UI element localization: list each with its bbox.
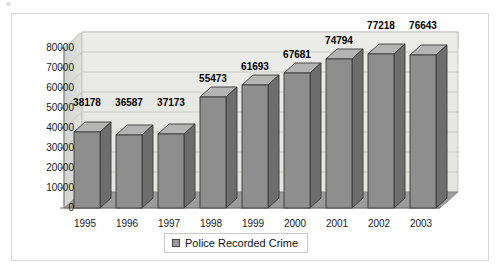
x-axis-tick-1995: 1995 xyxy=(65,218,105,230)
scan-artifact-speck xyxy=(6,2,11,6)
bar-2002-front xyxy=(368,54,394,208)
legend-series-label: Police Recorded Crime xyxy=(185,237,298,249)
legend-color-swatch-icon xyxy=(172,239,180,247)
bar-2001[interactable] xyxy=(326,49,363,208)
bar-value-1998: 55473 xyxy=(190,73,236,84)
bar-2003-front xyxy=(410,55,436,208)
bar-1999-side xyxy=(268,75,279,208)
bar-value-1997: 37173 xyxy=(148,97,194,108)
chart-frame: 38178 36587 37173 55473 61693 67681 7479… xyxy=(11,13,489,261)
bar-2002-side xyxy=(394,44,405,208)
y-axis-tick-10000: 10000 xyxy=(22,183,74,193)
bar-1999[interactable] xyxy=(242,75,279,208)
bar-2002[interactable] xyxy=(368,44,405,208)
bar-2003-side xyxy=(436,45,447,208)
bar-1997-front xyxy=(158,134,184,208)
x-axis-tick-1999: 1999 xyxy=(233,218,273,230)
y-axis-tick-30000: 30000 xyxy=(22,143,74,153)
bar-value-1996: 36587 xyxy=(106,97,152,108)
x-axis-tick-2002: 2002 xyxy=(359,218,399,230)
x-axis-labels: 1995 1996 1997 1998 1999 2000 2001 2002 … xyxy=(12,218,490,234)
bar-1998-front xyxy=(200,97,226,208)
y-axis-tick-70000: 70000 xyxy=(22,63,74,73)
y-axis-tick-60000: 60000 xyxy=(22,83,74,93)
bar-1998[interactable] xyxy=(200,87,237,208)
bar-2000-side xyxy=(310,63,321,208)
bar-value-2000: 67681 xyxy=(274,49,320,60)
x-axis-tick-1998: 1998 xyxy=(191,218,231,230)
bar-1997-side xyxy=(184,124,195,208)
x-axis-tick-2001: 2001 xyxy=(317,218,357,230)
bar-2003[interactable] xyxy=(410,45,447,208)
y-axis-tick-50000: 50000 xyxy=(22,103,74,113)
bar-1996[interactable] xyxy=(116,125,153,208)
y-axis-tick-20000: 20000 xyxy=(22,163,74,173)
bar-1995-front xyxy=(74,132,100,208)
bar-value-2002: 77218 xyxy=(358,20,404,31)
x-axis-tick-2000: 2000 xyxy=(275,218,315,230)
bar-2001-front xyxy=(326,59,352,208)
y-axis-tick-40000: 40000 xyxy=(22,123,74,133)
chart-legend[interactable]: Police Recorded Crime xyxy=(164,233,308,253)
bar-value-2001: 74794 xyxy=(316,35,362,46)
bar-1997[interactable] xyxy=(158,124,195,208)
bar-2001-side xyxy=(352,49,363,208)
bar-1999-front xyxy=(242,85,268,208)
bar-2000[interactable] xyxy=(284,63,321,208)
x-axis-tick-1997: 1997 xyxy=(149,218,189,230)
bar-value-1999: 61693 xyxy=(232,61,278,72)
x-axis-tick-1996: 1996 xyxy=(107,218,147,230)
y-axis-tick-80000: 80000 xyxy=(22,43,74,53)
bar-1996-front xyxy=(116,135,142,208)
bar-2000-front xyxy=(284,73,310,208)
x-axis-tick-2003: 2003 xyxy=(401,218,441,230)
bar-1996-side xyxy=(142,125,153,208)
y-axis-tick-0: 0 xyxy=(22,203,74,213)
bar-value-2003: 76643 xyxy=(400,20,446,31)
bar-1995[interactable] xyxy=(74,122,111,208)
bar-1995-side xyxy=(100,122,111,208)
bar-1998-side xyxy=(226,87,237,208)
